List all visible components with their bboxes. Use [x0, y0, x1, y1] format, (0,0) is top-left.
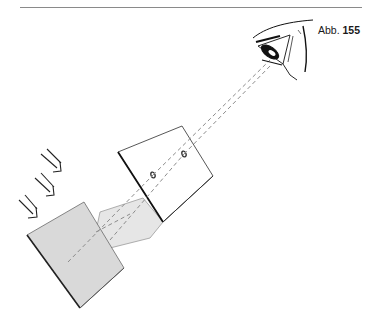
light-arrows — [19, 149, 61, 218]
arrow-icon-3 — [19, 195, 37, 218]
eye-icon — [253, 20, 313, 80]
arrow-icon-1 — [41, 149, 61, 172]
arrow-icon-2 — [35, 173, 54, 196]
pinhole-diagram — [0, 0, 370, 324]
